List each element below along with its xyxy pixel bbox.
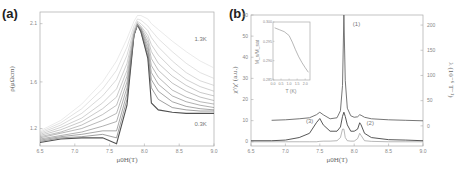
- panel-b: (b) 6.57.07.58.08.59.0 0102030405060 050…: [229, 6, 455, 164]
- panel-a-label: (a): [2, 6, 18, 21]
- panel-b-x-ticks: 6.57.07.58.08.59.0: [248, 144, 427, 155]
- panel-b-x-axis-label: μ0H(T): [326, 156, 348, 164]
- panel-a: (a) 6.57.07.58.08.59.0 1.21.62.1 1.3K0.3…: [2, 6, 218, 164]
- temperature-annotation: 1.3K: [195, 36, 207, 42]
- x-tick-label: 7.0: [282, 148, 289, 154]
- panel-b-right-y-axis-label: λ (10⁻⁶ T⁻¹): [447, 62, 455, 98]
- x-tick-label: 8.5: [176, 148, 183, 154]
- panel-b-left-y-axis-label: χ'/χ' (a.u.): [231, 66, 239, 94]
- y-tick-label: 1.2: [30, 125, 37, 131]
- y-tick-label: 2.1: [30, 20, 37, 26]
- panel-a-y-ticks: 1.21.62.1: [30, 20, 42, 131]
- x-tick-label: 8.5: [385, 148, 392, 154]
- y-tick-label: 30: [242, 75, 248, 81]
- resistivity-curve: [40, 24, 214, 136]
- curve-annotation: (3): [306, 118, 313, 124]
- panel-a-y-axis-label: ρ(μΩcm): [8, 66, 16, 92]
- inset-x-tick-label: 0.0: [271, 82, 276, 86]
- y-tick-label: 20: [242, 96, 248, 102]
- x-tick-label: 7.5: [106, 148, 113, 154]
- y-tick-label: 0: [427, 123, 430, 129]
- y-tick-label: 1.6: [30, 79, 37, 85]
- inset-background: [255, 18, 311, 81]
- curve-annotation: (2): [367, 120, 374, 126]
- temperature-annotation: 0.3K: [195, 121, 207, 127]
- x-tick-label: 6.5: [37, 148, 44, 154]
- curve-annotation: (1): [353, 21, 360, 27]
- x-tick-label: 7.0: [71, 148, 78, 154]
- panel-b-left-y-ticks: 0102030405060: [242, 12, 253, 145]
- inset-x-tick-label: 1.0: [287, 82, 292, 86]
- y-tick-label: 0: [245, 138, 248, 144]
- resistivity-curve: [40, 25, 214, 144]
- x-tick-label: 9.0: [420, 148, 427, 154]
- y-tick-label: 40: [242, 54, 248, 60]
- y-tick-label: 150: [427, 47, 436, 53]
- inset-y-tick-label: 0.295: [263, 40, 272, 44]
- y-tick-label: 50: [427, 97, 433, 103]
- inset-y-axis-label: M_s/M_sat: [254, 39, 260, 64]
- x-tick-label: 8.0: [351, 148, 358, 154]
- inset-y-tick-label: 0.290: [263, 59, 272, 63]
- susceptibility-curve: [251, 112, 423, 141]
- panel-a-x-ticks: 6.57.07.58.08.59.0: [37, 144, 218, 155]
- y-tick-label: 10: [242, 117, 248, 123]
- x-tick-label: 9.0: [211, 148, 218, 154]
- inset-y-tick-label: 0.300: [263, 20, 272, 24]
- panel-a-plot-frame: [40, 12, 214, 146]
- figure: (a) 6.57.07.58.08.59.0 1.21.62.1 1.3K0.3…: [0, 0, 463, 172]
- panel-a-curves: [40, 16, 214, 144]
- x-tick-label: 8.0: [141, 148, 148, 154]
- x-tick-label: 6.5: [248, 148, 255, 154]
- resistivity-curve: [40, 25, 214, 142]
- y-tick-label: 200: [427, 22, 436, 28]
- x-tick-label: 7.5: [316, 148, 323, 154]
- panel-a-x-axis-label: μ0H(T): [116, 156, 138, 164]
- y-tick-label: 100: [427, 72, 436, 78]
- inset-x-tick-label: 0.5: [279, 82, 284, 86]
- inset-x-axis-label: T (K): [285, 88, 296, 94]
- panel-b-annotations: (1)(2)(3): [306, 21, 374, 126]
- y-tick-label: 60: [242, 12, 248, 18]
- panel-b-inset: 0.00.51.01.52.0 0.2850.2900.2950.300 T (…: [254, 18, 311, 94]
- inset-x-tick-label: 1.5: [295, 82, 300, 86]
- inset-y-tick-label: 0.285: [263, 78, 272, 82]
- y-tick-label: 50: [242, 33, 248, 39]
- inset-x-tick-label: 2.0: [303, 82, 308, 86]
- resistivity-curve: [40, 25, 214, 138]
